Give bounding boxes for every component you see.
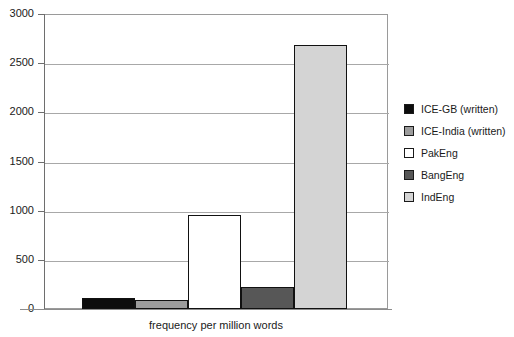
legend-item: IndEng: [404, 186, 514, 208]
bar: [294, 45, 347, 309]
legend-swatch-icon: [404, 148, 414, 158]
legend: ICE-GB (written)ICE-India (written)PakEn…: [404, 98, 514, 208]
legend-swatch-icon: [404, 170, 414, 180]
legend-item-label: BangEng: [421, 169, 464, 181]
legend-item-label: PakEng: [421, 147, 458, 159]
legend-item: PakEng: [404, 142, 514, 164]
legend-item-label: ICE-India (written): [421, 125, 506, 137]
bar: [135, 300, 188, 309]
legend-item: BangEng: [404, 164, 514, 186]
legend-swatch-icon: [404, 192, 414, 202]
legend-swatch-icon: [404, 104, 414, 114]
bar-chart: 050010001500200025003000 frequency per m…: [0, 0, 514, 337]
legend-item-label: IndEng: [421, 191, 454, 203]
bar: [241, 287, 294, 309]
x-axis-label: frequency per million words: [44, 319, 388, 331]
legend-item: ICE-GB (written): [404, 98, 514, 120]
bar: [188, 215, 241, 309]
legend-swatch-icon: [404, 126, 414, 136]
legend-item: ICE-India (written): [404, 120, 514, 142]
bar: [82, 298, 135, 309]
legend-item-label: ICE-GB (written): [421, 103, 498, 115]
